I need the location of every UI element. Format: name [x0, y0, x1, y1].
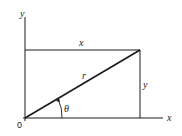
angle-label: θ [64, 103, 69, 114]
coordinate-diagram: y x 0 x y r θ [0, 0, 182, 136]
radius-line [25, 50, 140, 118]
origin-label: 0 [17, 120, 22, 130]
x-axis-label: x [166, 112, 172, 123]
y-axis-label: y [19, 8, 25, 19]
hypotenuse-label: r [82, 70, 86, 81]
angle-arc [58, 99, 62, 118]
top-side-label: x [78, 37, 84, 48]
right-side-label: y [142, 79, 148, 90]
